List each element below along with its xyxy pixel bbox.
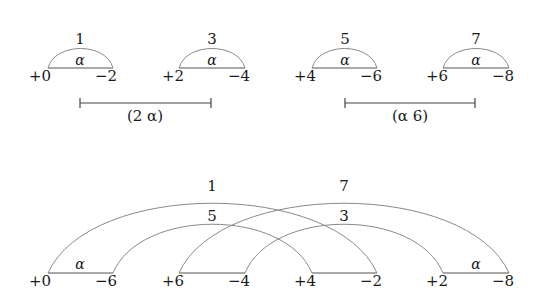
top-arc-5: 5 α +4 −6	[294, 30, 382, 85]
arc-label: 3	[207, 30, 217, 48]
alpha-label: α	[471, 256, 481, 272]
node-label: +6	[426, 67, 448, 85]
top-arc-7: 7 α +6 −8	[426, 30, 514, 85]
node-label: +4	[294, 272, 316, 290]
node-label: +2	[426, 272, 448, 290]
arc-3	[245, 224, 443, 273]
node-label: −2	[360, 272, 382, 290]
arc-5	[113, 224, 312, 273]
node-label: −6	[95, 272, 117, 290]
node-label: −2	[95, 67, 117, 85]
node-label: −4	[228, 67, 250, 85]
bracket-2-alpha: (2 α)	[80, 98, 211, 125]
arc-label: 7	[471, 30, 481, 48]
alpha-label: α	[207, 52, 217, 68]
bracket-alpha-6: (α 6)	[345, 98, 475, 125]
node-label: +4	[294, 67, 316, 85]
node-label: −8	[492, 67, 514, 85]
node-label: +0	[29, 67, 51, 85]
top-arc-3: 3 α +2 −4	[162, 30, 250, 85]
node-label: −6	[360, 67, 382, 85]
arc-label: 1	[207, 177, 217, 195]
node-label: +2	[162, 67, 184, 85]
arc-label: 7	[339, 177, 349, 195]
alpha-label: α	[75, 256, 85, 272]
alpha-label: α	[340, 52, 350, 68]
arc-label: 5	[340, 30, 350, 48]
arc-label: 1	[75, 30, 85, 48]
node-label: +6	[162, 272, 184, 290]
alpha-label: α	[471, 52, 481, 68]
node-label: +0	[29, 272, 51, 290]
bracket-label: (2 α)	[127, 107, 163, 125]
node-label: −8	[492, 272, 514, 290]
top-arc-1: 1 α +0 −2	[29, 30, 117, 85]
node-label: −4	[228, 272, 250, 290]
arc-label: 5	[207, 207, 217, 225]
bottom-row: α α 1 5 7 3 +0 −6 +6 −4 +4 −2 +2 −8	[29, 177, 514, 290]
arc-diagram: 1 α +0 −2 3 α +2 −4 5 α +4 −6 7 α +6 −8 …	[0, 0, 544, 304]
arc-label: 3	[339, 207, 349, 225]
bracket-label: (α 6)	[392, 107, 428, 125]
alpha-label: α	[75, 52, 85, 68]
